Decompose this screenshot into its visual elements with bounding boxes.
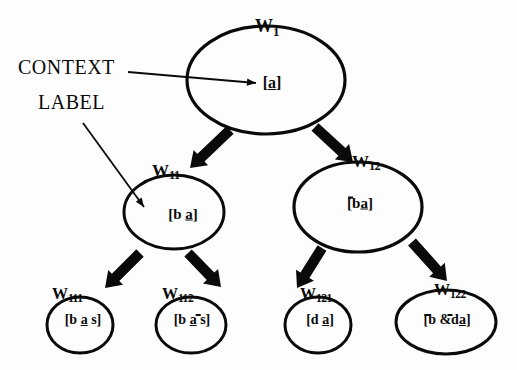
content-underlined-a-w121: a [322,312,329,327]
node-label-w111: W111 [52,285,83,304]
node-content-w122: [b & d a] [423,312,470,328]
node-label-prefix-w1: W [255,16,273,36]
node-label-w1: W1 [255,16,279,40]
node-label-subscript-w112: 112 [178,292,193,304]
node-label-subscript-w11: 11 [169,168,180,182]
content-underlined-a-w111: a [81,312,88,327]
node-content-w11: [b a] [168,206,198,223]
node-content-w12: [b a] [347,195,373,212]
annotation-arrow-head-label-arrow [136,198,144,207]
annotation-label: LABEL [38,91,105,114]
content-close-w111: s] [88,312,102,327]
content-open-w121: [d [306,312,322,327]
node-label-subscript-w1: 1 [273,24,279,39]
content-negated-s-w112: s] [200,312,210,328]
content-negated-b-w12: b [352,195,360,212]
edge-arrow-w1-w11 [190,126,234,168]
node-label-subscript-w121: 121 [316,292,332,304]
content-close-w12: ] [368,195,373,211]
node-label-prefix-w112: W [162,285,178,302]
node-label-prefix-w11: W [152,161,169,180]
content-negated-d-w122: d [451,312,459,328]
node-label-w122: W122 [434,281,466,300]
node-label-prefix-w12: W [352,152,369,171]
content-close-w122: ] [466,312,471,327]
context-tree-figure: CONTEXT LABEL W1[a]W11[b a]W12[b a]W111[… [0,0,517,370]
node-label-w11: W11 [152,161,180,183]
content-close-w11: ] [193,206,198,222]
node-label-subscript-w122: 122 [450,288,466,300]
node-label-prefix-w122: W [434,281,450,298]
content-close-w1: ] [276,74,281,91]
edge-arrow-w12-w121 [296,245,326,288]
node-label-w12: W12 [352,152,380,174]
annotation-context-text: CONTEXT [18,56,115,78]
node-label-subscript-w111: 111 [68,292,83,304]
content-close-w121: ] [329,312,334,327]
edge-arrow-w1-w12 [312,123,354,162]
node-content-w112: [b a s] [174,312,211,328]
annotation-context: CONTEXT [18,56,115,79]
node-content-w111: [b a s] [65,312,102,328]
node-content-w1: [a] [263,74,282,92]
node-label-w112: W112 [162,285,193,304]
content-open-w112: [b [174,312,190,327]
edge-arrow-w12-w122 [408,239,447,282]
content-underlined-a-w11: a [185,206,193,222]
node-label-prefix-w121: W [300,285,316,302]
annotation-label-text: LABEL [38,91,105,113]
content-underlined-a-w12: a [360,195,368,211]
content-open-w111: [b [65,312,81,327]
edge-arrow-w11-w112 [184,249,221,287]
annotation-arrow-line-context-arrow [128,72,256,83]
node-label-subscript-w12: 12 [369,159,380,173]
content-open-w11: [b [168,206,185,222]
edge-arrow-w11-w111 [105,249,144,288]
annotation-arrows-group [83,72,256,207]
node-content-w121: [d a] [306,312,334,328]
node-label-prefix-w111: W [52,285,68,302]
block-arrows-group [105,123,447,288]
node-label-w121: W121 [300,285,332,304]
annotation-arrow-line-label-arrow [83,123,144,207]
